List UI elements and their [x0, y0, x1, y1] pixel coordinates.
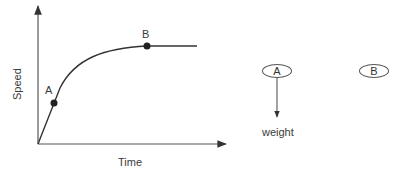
point-b-marker	[144, 43, 151, 50]
weight-label: weight	[262, 127, 294, 138]
y-axis-label: Speed	[12, 68, 23, 100]
speed-time-graph	[0, 0, 406, 175]
object-b-ellipse: B	[359, 64, 389, 78]
point-b-label: B	[142, 29, 149, 40]
object-a-ellipse: A	[262, 64, 292, 78]
x-axis-label: Time	[118, 157, 142, 168]
point-a-marker	[51, 100, 58, 107]
speed-curve	[38, 46, 197, 144]
point-a-label: A	[45, 85, 52, 96]
